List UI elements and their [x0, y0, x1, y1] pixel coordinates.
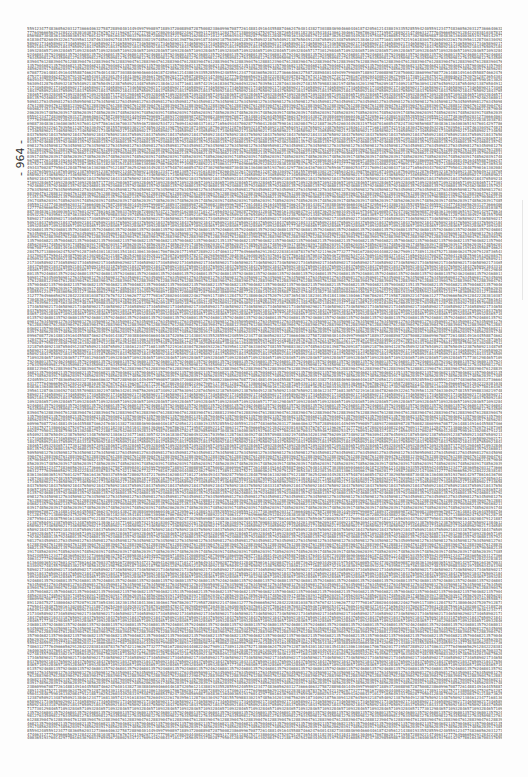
scan-artifact	[522, 200, 523, 300]
page-number: - 964 -	[12, 138, 28, 178]
digit-text-block: 5591234774836056203127366640632758728898…	[27, 27, 502, 741]
digit-line: 4003651937601429778616436700337659467280…	[27, 736, 502, 740]
